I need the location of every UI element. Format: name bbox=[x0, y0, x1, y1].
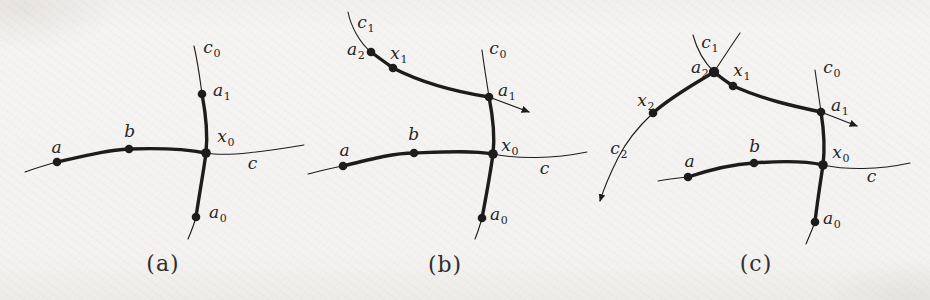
point-dot-a2 bbox=[367, 48, 376, 57]
label-a2-c: a2 bbox=[691, 59, 709, 76]
point-dot-a0 bbox=[192, 213, 201, 222]
point-dot-x1 bbox=[729, 82, 738, 91]
label-x0-c: x0 bbox=[832, 144, 850, 161]
label-c2-c: c2 bbox=[610, 140, 628, 157]
point-dot-x0 bbox=[488, 149, 498, 159]
label-a0-b: a0 bbox=[490, 206, 508, 223]
point-dot-a1 bbox=[485, 93, 494, 102]
label-a1-c: a1 bbox=[831, 97, 849, 114]
label-c-b: c bbox=[540, 160, 550, 177]
point-dot-a bbox=[684, 173, 693, 182]
label-c0-c: c0 bbox=[823, 59, 841, 76]
label-c-a: c bbox=[248, 155, 258, 172]
label-a2-b: a2 bbox=[347, 41, 365, 58]
point-dot-b bbox=[750, 159, 759, 168]
caption-b: (b) bbox=[428, 252, 462, 277]
label-a0-c: a0 bbox=[823, 210, 841, 227]
label-a-a: a bbox=[52, 139, 63, 156]
label-a-b: a bbox=[340, 142, 351, 159]
label-b-a: b bbox=[124, 123, 136, 140]
curve-a2a1-thick-b bbox=[371, 52, 489, 97]
label-x2-c: x2 bbox=[637, 92, 655, 109]
point-dot-x0 bbox=[201, 148, 211, 158]
label-b-c: b bbox=[749, 138, 761, 155]
point-dot-a0 bbox=[811, 218, 820, 227]
label-c0-b: c0 bbox=[489, 40, 507, 57]
label-a1-b: a1 bbox=[498, 82, 516, 99]
point-dot-a bbox=[53, 158, 62, 167]
label-a0-a: a0 bbox=[209, 204, 227, 221]
caption-c: (c) bbox=[740, 251, 773, 276]
label-c1-b: c1 bbox=[357, 14, 375, 31]
point-dot-a1 bbox=[198, 90, 207, 99]
point-dot-a bbox=[339, 162, 348, 171]
point-dot-b bbox=[125, 145, 134, 154]
label-x0-b: x0 bbox=[501, 137, 519, 154]
label-x1-b: x1 bbox=[390, 45, 408, 62]
label-x0-a: x0 bbox=[217, 128, 235, 145]
point-dot-a0 bbox=[478, 214, 487, 223]
point-dot-x1 bbox=[389, 64, 398, 73]
point-dot-a2 bbox=[709, 67, 719, 77]
label-a-c: a bbox=[685, 153, 696, 170]
figure-a bbox=[25, 46, 304, 239]
scanned-figure-page: a b x0 a1 a0 c c0 (a) a b x0 a1 a0 c c0 … bbox=[0, 0, 930, 300]
label-x1-c: x1 bbox=[733, 62, 751, 79]
caption-a: (a) bbox=[146, 251, 179, 276]
figure-canvas bbox=[0, 0, 930, 300]
label-b-b: b bbox=[408, 126, 420, 143]
point-dot-x0 bbox=[818, 160, 828, 170]
label-a1-a: a1 bbox=[213, 82, 231, 99]
point-dot-b bbox=[410, 149, 419, 158]
label-c-c: c bbox=[867, 168, 877, 185]
label-c1-c: c1 bbox=[701, 34, 719, 51]
point-dot-a1 bbox=[817, 108, 826, 117]
label-c0-a: c0 bbox=[203, 39, 221, 56]
curve-a2a1-thick-c bbox=[714, 72, 821, 112]
